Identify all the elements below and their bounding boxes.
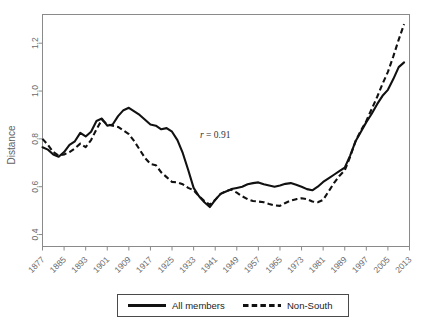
y-axis-title: Distance	[6, 125, 17, 164]
legend-label: All members	[172, 300, 225, 311]
chart-annotations: r = 0.91	[200, 130, 231, 140]
y-tick-label: 0.4	[31, 228, 41, 240]
annotation-correlation: r = 0.91	[200, 130, 231, 140]
chart-legend: All membersNon-South	[118, 295, 349, 317]
distance-line-chart: Distance 0.40.60.81.01.2 187718851893190…	[0, 0, 432, 326]
chart-container: Distance 0.40.60.81.01.2 187718851893190…	[0, 0, 432, 326]
y-tick-label: 1.0	[31, 85, 41, 97]
y-tick-label: 1.2	[31, 37, 41, 49]
legend-label: Non-South	[287, 300, 332, 311]
chart-background	[0, 0, 432, 326]
y-tick-label: 0.8	[31, 133, 41, 145]
y-tick-label: 0.6	[31, 181, 41, 193]
y-axis-title-text: Distance	[6, 125, 17, 164]
annotation-value: = 0.91	[204, 130, 231, 140]
